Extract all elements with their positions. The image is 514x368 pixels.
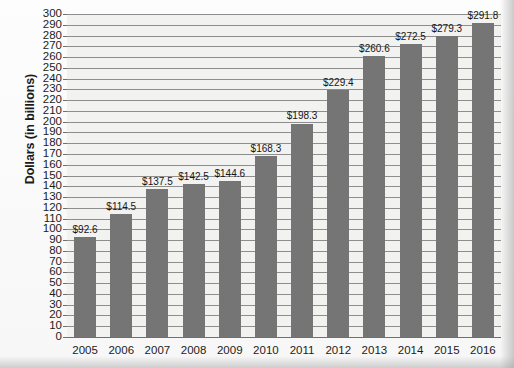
gridline	[67, 14, 501, 15]
page-edge-shadow-right	[500, 0, 514, 368]
chart-screenshot: Dollars (in billions) 300290280270260250…	[0, 0, 514, 368]
page-edge-shadow-bottom	[0, 356, 514, 368]
bar-data-label: $168.3	[243, 143, 289, 154]
bar	[255, 156, 277, 337]
bar	[436, 36, 458, 337]
bar	[472, 23, 494, 337]
bar-data-label: $279.3	[424, 23, 470, 34]
plot-area	[67, 14, 501, 337]
bar	[400, 44, 422, 337]
bar-data-label: $291.8	[460, 10, 506, 21]
bar-data-label: $229.4	[315, 77, 361, 88]
bar	[363, 56, 385, 337]
y-axis-tick-label: 0	[26, 331, 62, 342]
bar-data-label: $198.3	[279, 110, 325, 121]
bar	[183, 184, 205, 337]
bar-data-label: $260.6	[351, 43, 397, 54]
bar-data-label: $92.6	[62, 224, 108, 235]
gridline	[67, 337, 501, 338]
bar-data-label: $144.6	[207, 168, 253, 179]
x-axis-tick-label: 2016	[460, 344, 506, 356]
bar-data-label: $114.5	[98, 201, 144, 212]
bar	[74, 237, 96, 337]
bar	[110, 214, 132, 337]
bar	[146, 189, 168, 337]
bar	[327, 90, 349, 337]
bar	[291, 124, 313, 338]
bar	[219, 181, 241, 337]
